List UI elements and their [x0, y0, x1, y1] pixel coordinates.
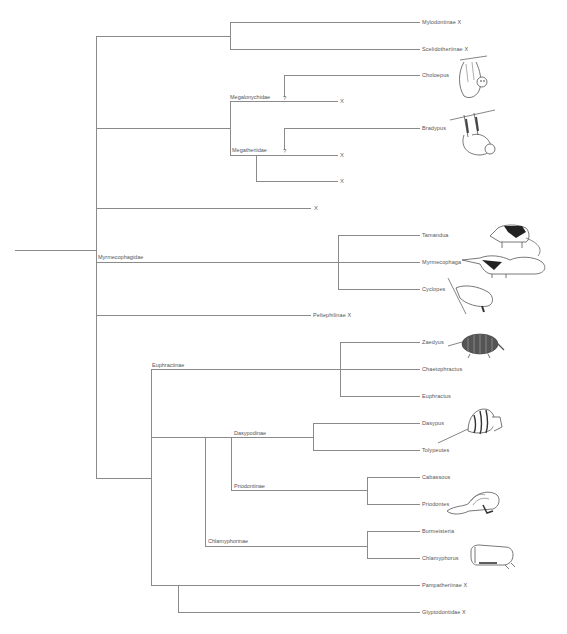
branch: [230, 22, 231, 50]
branch: [313, 450, 420, 451]
terminal-chaetophractus: Chaetophractus: [422, 366, 462, 372]
anteater-myrmecophaga-illustration: [462, 250, 552, 280]
extinct-marker: X: [340, 178, 344, 184]
armadillo-chlamyphorus-illustration: [467, 543, 517, 571]
sloth-bradypus-illustration: [450, 105, 500, 160]
uncertain-marker: ?: [283, 95, 286, 101]
branch: [151, 437, 314, 438]
terminal-bradypus: Bradypus: [422, 125, 446, 131]
branch: [96, 36, 231, 37]
extinct-marker: X: [314, 205, 318, 211]
branch: [230, 155, 338, 156]
terminal-tamandua: Tamandua: [422, 232, 449, 238]
branch: [230, 101, 338, 102]
branch: [367, 531, 420, 532]
clade-label-priodontinae: Priodontinae: [234, 483, 265, 489]
branch: [231, 437, 232, 491]
branch: [367, 558, 420, 559]
branch: [367, 477, 420, 478]
branch: [151, 585, 420, 586]
branch: [284, 75, 420, 76]
clade-label-megalonychidae: Megalonychidae: [230, 94, 270, 100]
branch: [96, 128, 231, 129]
clade-label-megatheriidae: Megatheriidae: [232, 147, 267, 153]
branch: [96, 315, 311, 316]
branch: [284, 75, 285, 97]
branch: [178, 612, 420, 613]
clade-label-myrmecophagidae: Myrmecophagidae: [98, 254, 143, 260]
terminal-pampatheriinae: Pampatheriinae X: [422, 582, 467, 588]
terminal-glyptodontidae: Glyptodontidae X: [422, 609, 466, 615]
clade-label-chlamyphorinae: Chlamyphorinae: [208, 538, 248, 544]
branch: [313, 423, 314, 451]
extinct-marker: X: [340, 98, 344, 104]
anteater-cyclopes-illustration: [448, 278, 498, 316]
branch: [284, 128, 420, 129]
branch: [231, 490, 368, 491]
branch: [230, 101, 231, 155]
terminal-cyclopes: Cyclopes: [422, 286, 445, 292]
branch: [151, 369, 152, 586]
branch: [230, 49, 420, 50]
extinct-marker: X: [340, 152, 344, 158]
branch: [230, 22, 420, 23]
branch: [338, 289, 420, 290]
branch: [313, 423, 420, 424]
branch: [205, 546, 368, 547]
branch: [96, 478, 152, 479]
clade-label-euphractinae: Euphractinae: [152, 362, 184, 368]
branch: [178, 585, 179, 613]
terminal-peltephilinae: Peltephilinae X: [313, 312, 351, 318]
terminal-choloepus: Choloepus: [422, 72, 449, 78]
terminal-euphractus: Euphractus: [422, 393, 451, 399]
branch: [367, 531, 368, 559]
terminal-tolypeutes: Tolypeutes: [422, 447, 449, 453]
uncertain-marker: ?: [283, 148, 286, 154]
branch: [284, 128, 285, 150]
branch: [367, 477, 368, 505]
branch: [205, 437, 206, 547]
branch: [338, 235, 420, 236]
root-branch: [15, 250, 97, 251]
terminal-chlamyphorus: Chlamyphorus: [422, 555, 459, 561]
branch: [256, 155, 257, 182]
terminal-burmeisteria: Burmeisteria: [422, 528, 454, 534]
branch: [367, 504, 420, 505]
terminal-mylodontinae: Mylodontinae X: [422, 19, 461, 25]
branch: [256, 181, 338, 182]
terminal-zaedyus: Zaedyus: [422, 339, 444, 345]
branch: [96, 208, 311, 209]
branch: [151, 369, 420, 370]
sloth-choloepus-illustration: [452, 52, 492, 102]
terminal-cabassous: Cabassous: [422, 474, 450, 480]
branch: [96, 262, 420, 263]
branch: [340, 396, 420, 397]
clade-label-dasypodinae: Dasypodinae: [234, 430, 266, 436]
branch: [340, 342, 341, 397]
armadillo-zaedyus-illustration: [448, 332, 508, 362]
branch: [338, 235, 339, 290]
armadillo-priodontes-illustration: [445, 485, 505, 520]
terminal-myrmecophaga: Myrmecophaga: [422, 259, 461, 265]
main-spine: [96, 36, 97, 479]
branch: [340, 342, 420, 343]
armadillo-tolypeutes-illustration: [438, 405, 508, 445]
